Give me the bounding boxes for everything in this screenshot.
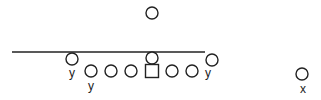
position-label: x bbox=[300, 83, 306, 95]
position-label: y bbox=[88, 80, 94, 92]
player-deep-back-circle-icon bbox=[146, 7, 158, 19]
player-right-end-circle-icon bbox=[206, 54, 218, 66]
player-center-square-icon bbox=[146, 65, 159, 78]
player-left-end-circle-icon bbox=[66, 53, 78, 65]
player-lineman-5-circle-icon bbox=[166, 65, 178, 77]
position-label: y bbox=[69, 67, 75, 79]
player-lineman-1-circle-icon bbox=[85, 65, 97, 77]
player-center-back-circle-icon bbox=[146, 52, 158, 64]
player-lineman-6-circle-icon bbox=[186, 65, 198, 77]
player-flanker-circle-icon bbox=[296, 68, 308, 80]
player-lineman-3-circle-icon bbox=[125, 65, 137, 77]
player-lineman-2-circle-icon bbox=[105, 65, 117, 77]
players bbox=[66, 7, 308, 80]
position-label: y bbox=[205, 67, 211, 79]
play-diagram bbox=[0, 0, 321, 100]
